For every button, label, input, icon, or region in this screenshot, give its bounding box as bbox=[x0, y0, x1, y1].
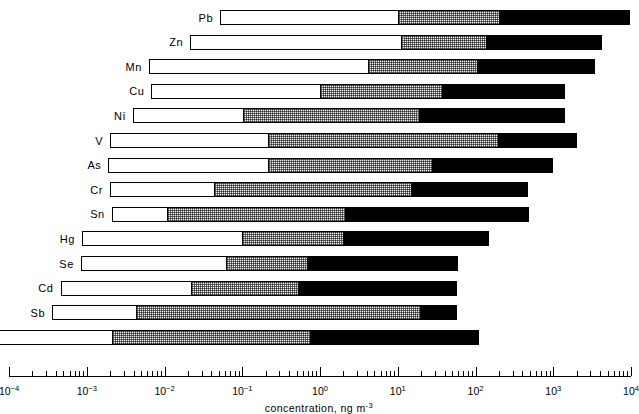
axis-tick-major bbox=[87, 367, 88, 376]
bar-segment-stippled bbox=[214, 183, 411, 196]
axis-tick-minor bbox=[303, 371, 304, 376]
axis-tick-minor bbox=[141, 371, 142, 376]
bar-segment-solid bbox=[499, 11, 630, 24]
bar-segment-open bbox=[191, 36, 401, 49]
axis-tick-minor bbox=[513, 371, 514, 376]
bar-segment-stippled bbox=[368, 60, 476, 73]
bar-track bbox=[0, 330, 479, 345]
axis-tick-minor bbox=[56, 371, 57, 376]
axis-tick-minor bbox=[211, 371, 212, 376]
axis-tick-minor bbox=[70, 371, 71, 376]
axis-tick-minor bbox=[394, 371, 395, 376]
bar-label: Cr bbox=[90, 184, 103, 196]
axis-tick-major bbox=[398, 367, 399, 376]
axis-tick-label: 100 bbox=[312, 385, 328, 397]
bar-segment-stippled bbox=[226, 257, 306, 270]
axis-tick-minor bbox=[161, 371, 162, 376]
axis-tick-minor bbox=[619, 371, 620, 376]
bar-row: Pb bbox=[220, 10, 630, 25]
bar-label: Se bbox=[59, 258, 74, 270]
axis-tick-minor bbox=[343, 371, 344, 376]
bar-segment-solid bbox=[477, 60, 594, 73]
axis-tick-minor bbox=[381, 371, 382, 376]
bar-row: Ni bbox=[133, 108, 565, 123]
bar-label: Pb bbox=[199, 12, 214, 24]
axis-tick-minor bbox=[75, 371, 76, 376]
bar-segment-solid bbox=[442, 85, 564, 98]
bar-segment-open bbox=[152, 85, 320, 98]
bar-track bbox=[133, 108, 565, 123]
axis-tick-label: 104 bbox=[623, 385, 639, 397]
axis-tick-minor bbox=[627, 371, 628, 376]
axis-tick-minor bbox=[435, 371, 436, 376]
bar-segment-open bbox=[111, 183, 214, 196]
x-axis-title-text: concentration, ng m bbox=[265, 402, 366, 414]
axis-tick-minor bbox=[308, 371, 309, 376]
bar-row: As bbox=[108, 158, 553, 173]
bar-label: Cd bbox=[38, 282, 53, 294]
bar-segment-solid bbox=[432, 159, 552, 172]
bar-segment-open bbox=[109, 159, 267, 172]
axis-tick-minor bbox=[550, 371, 551, 376]
axis-tick-major bbox=[631, 367, 632, 376]
axis-tick-minor bbox=[530, 371, 531, 376]
bar-label: Sn bbox=[90, 208, 105, 220]
axis-tick-major bbox=[553, 367, 554, 376]
axis-tick-minor bbox=[110, 371, 111, 376]
axis-tick-minor bbox=[312, 371, 313, 376]
axis-tick-major bbox=[242, 367, 243, 376]
bar-row: Cd bbox=[61, 281, 458, 296]
bar-segment-stippled bbox=[136, 306, 421, 319]
bar-label: Cu bbox=[129, 85, 144, 97]
bar-segment-solid bbox=[420, 306, 456, 319]
bar-row: Cr bbox=[110, 182, 528, 197]
axis-tick-label: 102 bbox=[468, 385, 484, 397]
bar-track bbox=[110, 133, 577, 148]
bar-segment-open bbox=[111, 134, 267, 147]
bar-segment-open bbox=[134, 109, 243, 122]
axis-tick-minor bbox=[458, 371, 459, 376]
axis-tick-minor bbox=[297, 371, 298, 376]
bar-row: Zn bbox=[190, 35, 601, 50]
axis-tick-major bbox=[320, 367, 321, 376]
bar-segment-stippled bbox=[268, 159, 432, 172]
axis-tick-label: 10−2 bbox=[154, 385, 174, 397]
bar-segment-solid bbox=[411, 183, 527, 196]
axis-tick-major bbox=[9, 367, 10, 376]
bar-segment-open bbox=[62, 282, 192, 295]
bar-track bbox=[151, 84, 564, 99]
axis-tick-label: 101 bbox=[390, 385, 406, 397]
bar-segment-solid bbox=[345, 208, 528, 221]
axis-line bbox=[9, 376, 631, 377]
bar-segment-solid bbox=[307, 257, 457, 270]
axis-tick-major bbox=[476, 367, 477, 376]
bar-segment-stippled bbox=[191, 282, 297, 295]
bar-label: Ni bbox=[114, 110, 126, 122]
bar-segment-stippled bbox=[243, 109, 419, 122]
bar-segment-solid bbox=[498, 134, 575, 147]
bar-row: Hg bbox=[82, 231, 489, 246]
axis-tick-minor bbox=[600, 371, 601, 376]
bar-row: Cu bbox=[151, 84, 564, 99]
bar-segment-solid bbox=[343, 232, 488, 245]
bar-segment-stippled bbox=[242, 232, 343, 245]
bar-track bbox=[81, 256, 458, 271]
axis-tick-minor bbox=[46, 371, 47, 376]
axis-tick-minor bbox=[316, 371, 317, 376]
bar-row: V bbox=[110, 133, 577, 148]
axis-tick-minor bbox=[522, 371, 523, 376]
axis-tick-minor bbox=[134, 371, 135, 376]
axis-tick-minor bbox=[230, 371, 231, 376]
bar-row: Sn bbox=[112, 207, 529, 222]
axis-tick-minor bbox=[188, 371, 189, 376]
bar-row: Mn bbox=[149, 59, 595, 74]
bar-track bbox=[61, 281, 458, 296]
axis-tick-minor bbox=[202, 371, 203, 376]
bar-row: Co bbox=[0, 330, 479, 345]
axis-tick-minor bbox=[421, 371, 422, 376]
x-axis-title: concentration, ng m-3 bbox=[0, 402, 638, 414]
bar-segment-open bbox=[82, 257, 226, 270]
bar-segment-open bbox=[83, 232, 242, 245]
plot-area: PbZnMnCuNiVAsCrSnHgSeCdSbCo bbox=[0, 0, 638, 360]
